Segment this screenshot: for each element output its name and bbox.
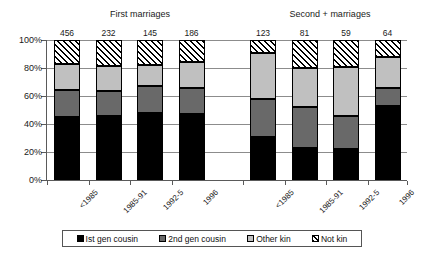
bar-count-label: 186	[172, 28, 212, 38]
bar-segment-0	[179, 114, 205, 180]
bar-segment-0	[292, 148, 318, 180]
bar-segment-3	[375, 40, 401, 57]
legend-swatch-icon	[247, 235, 254, 242]
chart-legend: Ist gen cousin2nd gen cousinOther kinNot…	[62, 230, 362, 247]
x-tick-mark	[130, 181, 131, 185]
y-tick-label: 0%	[29, 175, 42, 185]
bar	[333, 40, 359, 180]
bar-segment-1	[292, 107, 318, 148]
bar-segment-0	[333, 149, 359, 180]
x-axis-label: 1996	[397, 188, 416, 207]
bar-segment-0	[250, 137, 276, 180]
bar-count-label: 145	[130, 28, 170, 38]
bar-segment-1	[179, 88, 205, 115]
group-title-second-plus-marriages: Second + marriages	[270, 9, 390, 19]
bar-segment-3	[179, 40, 205, 62]
y-tick-label: 100%	[19, 35, 42, 45]
bar-count-label: 81	[285, 28, 325, 38]
legend-swatch-icon	[77, 235, 84, 242]
bar-segment-2	[292, 68, 318, 107]
y-tick-label: 40%	[24, 119, 42, 129]
legend-label: Other kin	[256, 234, 291, 244]
legend-swatch-icon	[312, 235, 319, 242]
bar-segment-2	[375, 57, 401, 88]
bar-segment-3	[250, 40, 276, 53]
bar-segment-3	[96, 40, 122, 66]
bar-count-label: 64	[368, 28, 408, 38]
bar-segment-1	[250, 99, 276, 137]
legend-label: Not kin	[321, 234, 347, 244]
bar-segment-3	[137, 40, 163, 65]
bar-count-label: 232	[89, 28, 129, 38]
x-axis-label: 1985-91	[317, 188, 344, 215]
stacked-bar-chart: First marriages Second + marriages 0%20%…	[0, 0, 425, 256]
bar-segment-1	[96, 91, 122, 116]
plot-area	[47, 40, 407, 180]
legend-label: 2nd gen cousin	[168, 234, 226, 244]
x-tick-mark	[368, 181, 369, 185]
legend-swatch-icon	[159, 235, 166, 242]
legend-item: Ist gen cousin	[77, 234, 138, 244]
legend-item: Not kin	[312, 234, 347, 244]
x-axis-label: <1985	[78, 188, 100, 210]
bar-segment-0	[54, 117, 80, 180]
x-axis-label: 1985-91	[121, 188, 148, 215]
bar-segment-1	[333, 116, 359, 150]
x-axis-label: 1992-5	[357, 188, 381, 212]
x-axis-label: 1996	[201, 188, 220, 207]
x-axis-label: <1985	[274, 188, 296, 210]
group-title-first-marriages: First marriages	[85, 9, 195, 19]
x-tick-mark	[243, 181, 244, 185]
bar-count-label: 456	[47, 28, 87, 38]
bar	[375, 40, 401, 180]
bar-segment-2	[250, 53, 276, 99]
bar-segment-2	[54, 64, 80, 91]
y-tick-label: 20%	[24, 147, 42, 157]
bar-segment-3	[333, 40, 359, 67]
bar	[137, 40, 163, 180]
bar-segment-1	[54, 90, 80, 117]
x-tick-mark	[172, 181, 173, 185]
legend-label: Ist gen cousin	[86, 234, 138, 244]
x-tick-mark	[326, 181, 327, 185]
legend-item: 2nd gen cousin	[159, 234, 226, 244]
bar-segment-2	[333, 67, 359, 116]
gridline	[47, 180, 407, 181]
bar-segment-3	[54, 40, 80, 64]
bar	[96, 40, 122, 180]
bar-segment-2	[137, 65, 163, 86]
bar	[54, 40, 80, 180]
legend-item: Other kin	[247, 234, 291, 244]
bar	[250, 40, 276, 180]
bar-segment-2	[96, 66, 122, 91]
bar-segment-0	[137, 113, 163, 180]
y-tick-label: 80%	[24, 63, 42, 73]
bar-count-label: 59	[326, 28, 366, 38]
bar-segment-1	[375, 88, 401, 106]
x-tick-mark	[89, 181, 90, 185]
bar-segment-0	[375, 106, 401, 180]
bar	[292, 40, 318, 180]
bar-segment-0	[96, 116, 122, 180]
bar-segment-2	[179, 62, 205, 87]
x-axis-label: 1992-5	[161, 188, 185, 212]
bar-count-label: 123	[243, 28, 283, 38]
x-tick-mark	[407, 181, 408, 185]
y-tick-label: 60%	[24, 91, 42, 101]
x-tick-mark	[285, 181, 286, 185]
bar	[179, 40, 205, 180]
bar-segment-1	[137, 86, 163, 113]
bar-segment-3	[292, 40, 318, 68]
x-tick-mark	[47, 181, 48, 185]
